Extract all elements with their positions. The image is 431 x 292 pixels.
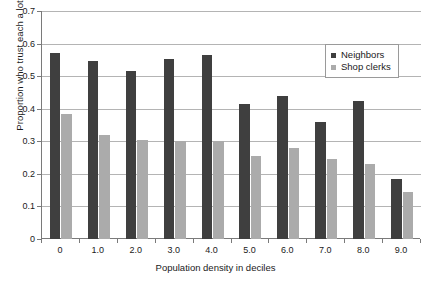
x-tick-mark: [344, 239, 345, 243]
bar-shop-clerks: [289, 148, 300, 239]
x-tick-label: 2.0: [116, 245, 156, 255]
bar-shop-clerks: [137, 140, 148, 239]
x-tick-mark: [155, 239, 156, 243]
bar-shop-clerks: [365, 164, 376, 239]
y-tick-label: 0.5: [4, 71, 35, 81]
legend-item-shop-clerks: Shop clerks: [331, 61, 391, 73]
bar-group: [194, 11, 232, 239]
light-square-icon: [331, 65, 336, 70]
bar-shop-clerks: [327, 159, 338, 239]
y-tick-label: 0.1: [4, 201, 35, 211]
y-tick-label: 0.7: [4, 6, 35, 16]
x-tick-mark: [231, 239, 232, 243]
bar-neighbors: [88, 61, 99, 239]
y-tick-label: 0.4: [4, 104, 35, 114]
bar-shop-clerks: [251, 156, 262, 239]
x-tick-label: 3.0: [154, 245, 194, 255]
bar-shop-clerks: [61, 114, 72, 239]
bar-group: [80, 11, 118, 239]
x-tick-label: 8.0: [343, 245, 383, 255]
bar-neighbors: [277, 96, 288, 239]
x-tick-label: 7.0: [305, 245, 345, 255]
bar-group: [269, 11, 307, 239]
x-tick-mark: [306, 239, 307, 243]
x-tick-mark: [79, 239, 80, 243]
x-tick-label: 9.0: [381, 245, 421, 255]
x-tick-mark: [420, 239, 421, 243]
bar-neighbors: [353, 101, 364, 239]
x-tick-mark: [117, 239, 118, 243]
bar-shop-clerks: [99, 135, 110, 239]
y-tick-label: 0.6: [4, 39, 35, 49]
bar-neighbors: [315, 122, 326, 239]
x-tick-label: 6.0: [267, 245, 307, 255]
x-axis-title: Population density in deciles: [0, 262, 431, 273]
bar-group: [118, 11, 156, 239]
bar-neighbors: [239, 104, 250, 239]
bar-group: [42, 11, 80, 239]
bar-group: [232, 11, 270, 239]
legend: Neighbors Shop clerks: [325, 44, 399, 78]
bar-neighbors: [126, 71, 137, 239]
bar-shop-clerks: [175, 141, 186, 239]
legend-label: Neighbors: [341, 50, 384, 60]
x-tick-label: 4.0: [192, 245, 232, 255]
dark-square-icon: [331, 53, 336, 58]
x-tick-label: 5.0: [229, 245, 269, 255]
x-tick-label: 0: [40, 245, 80, 255]
y-tick-label: 0.2: [4, 169, 35, 179]
bar-chart: Proportion who trust each a lot 00.10.20…: [0, 0, 431, 292]
x-tick-mark: [41, 239, 42, 243]
y-tick-label: 0: [4, 234, 35, 244]
x-tick-mark: [382, 239, 383, 243]
bar-neighbors: [50, 53, 61, 239]
bar-shop-clerks: [403, 192, 414, 239]
bar-group: [156, 11, 194, 239]
bar-shop-clerks: [213, 141, 224, 239]
bar-neighbors: [391, 179, 402, 239]
x-tick-label: 1.0: [78, 245, 118, 255]
x-tick-mark: [193, 239, 194, 243]
legend-item-neighbors: Neighbors: [331, 49, 391, 61]
bar-neighbors: [164, 59, 175, 239]
x-tick-mark: [268, 239, 269, 243]
legend-label: Shop clerks: [341, 62, 391, 72]
bar-neighbors: [202, 55, 213, 239]
y-tick-label: 0.3: [4, 136, 35, 146]
